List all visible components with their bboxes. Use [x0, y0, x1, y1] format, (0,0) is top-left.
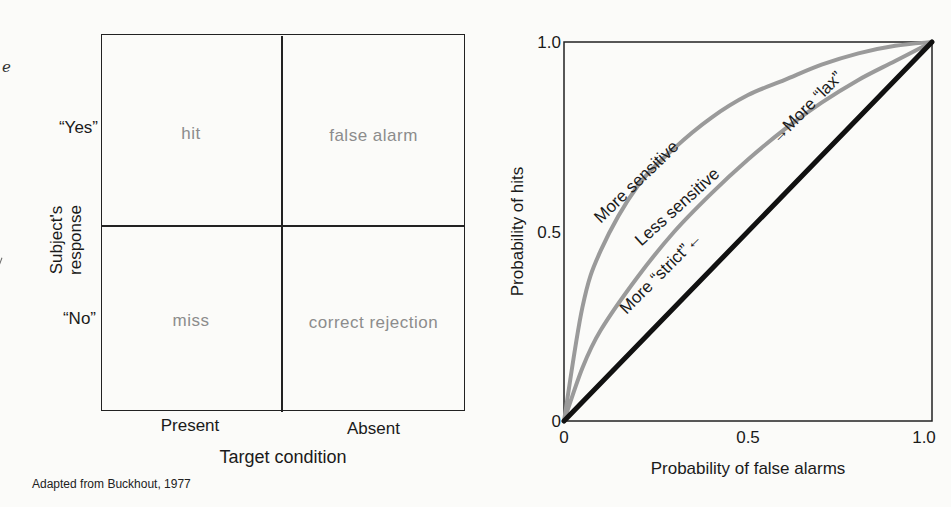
annotation-layer: More sensitiveLess sensitive→More “lax”M… — [590, 67, 846, 317]
x-tick-label: 0.5 — [736, 428, 760, 447]
series-layer — [564, 42, 932, 421]
x-axis-title: Probability of false alarms — [651, 459, 846, 478]
roc-chart: More sensitiveLess sensitive→More “lax”M… — [0, 0, 951, 507]
y-tick-label: 0 — [552, 412, 561, 431]
y-tick-label: 0.5 — [537, 223, 561, 242]
y-tick-label: 1.0 — [537, 33, 561, 52]
x-tick-label: 1.0 — [912, 428, 936, 447]
annotation-more-strict: More “strict”← — [616, 228, 706, 318]
y-axis-title: Probability of hits — [508, 167, 527, 296]
annotation-more-lax: →More “lax” — [767, 67, 847, 147]
series-line-chance — [564, 42, 932, 421]
